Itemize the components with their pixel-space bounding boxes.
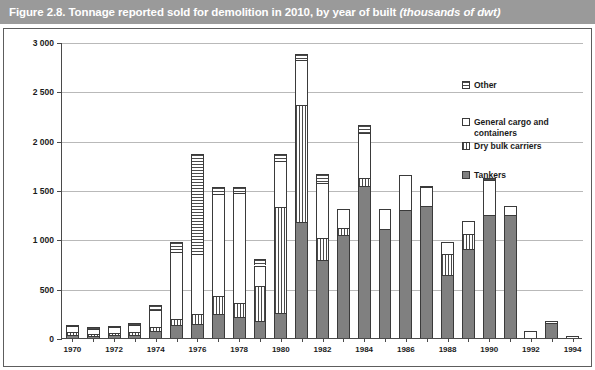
x-axis-tick [531,338,532,342]
legend-item-tankers[interactable]: Tankers [462,170,506,181]
bar-group[interactable] [379,42,392,338]
bar-segment [191,154,204,254]
x-axis-tick [218,338,219,342]
bar-segment [108,327,121,332]
y-axis-label: 500 [40,285,54,295]
bar-group[interactable] [108,42,121,338]
y-axis-label: 2 000 [33,137,54,147]
bar-segment [170,325,183,338]
bar-group[interactable] [128,42,141,338]
legend-item-drybulk[interactable]: Dry bulk carriers [462,141,542,152]
bar-group[interactable] [441,42,454,338]
bar-segment [337,228,350,235]
y-axis-label: 0 [49,334,54,344]
figure-title-main: Figure 2.8. Tonnage reported sold for de… [9,6,399,18]
x-axis-tick [197,338,198,342]
bar-group[interactable] [337,42,350,338]
y-axis-label: 1 500 [33,186,54,196]
bar-segment [170,319,183,324]
x-axis-tick [364,338,365,342]
bar-segment [170,252,183,319]
bar-segment [379,229,392,338]
x-axis-label: 1972 [105,345,123,354]
bar-group[interactable] [254,42,267,338]
legend-swatch-icon [462,142,470,150]
bar-segment [483,180,496,215]
x-axis-tick [93,338,94,342]
bar-group[interactable] [316,42,329,338]
bar-segment [66,325,79,326]
y-axis-label: 2 500 [33,87,54,97]
bar-segment [66,326,79,331]
bar-group[interactable] [504,42,517,338]
bar-segment [358,133,371,178]
bar-segment [545,321,558,322]
bar-group[interactable] [170,42,183,338]
bar-segment [274,154,287,162]
x-axis-tick [552,338,553,342]
figure-title-units: (thousands of dwt) [399,6,500,18]
bar-segment [420,186,433,187]
x-axis-label: 1984 [355,345,373,354]
bar-group[interactable] [295,42,308,338]
bar-group[interactable] [399,42,412,338]
bar-group[interactable] [545,42,558,338]
bar-segment [128,323,141,325]
x-axis-tick [302,338,303,342]
bar-segment [420,187,433,206]
bar-segment [87,334,100,336]
bar-group[interactable] [212,42,225,338]
legend-item-other[interactable]: Other [462,80,497,91]
bar-segment [462,234,475,249]
bar-group[interactable] [87,42,100,338]
bar-group[interactable] [358,42,371,338]
bar-segment [337,235,350,338]
bar-segment [295,222,308,338]
bar-segment [212,194,225,296]
x-axis-tick [406,338,407,342]
bar-segment [128,332,141,335]
x-axis-label: 1986 [397,345,415,354]
bar-segment [462,249,475,338]
bar-segment [191,324,204,338]
bar-group[interactable] [233,42,246,338]
bar-segment [399,210,412,338]
bar-segment [170,242,183,252]
bar-segment [149,305,162,310]
legend-swatch-icon [462,171,470,179]
y-axis-tick [57,339,62,340]
bar-segment [212,314,225,338]
bar-group[interactable] [191,42,204,338]
bar-segment [212,296,225,314]
legend-swatch-icon [462,81,470,89]
x-axis-tick [343,338,344,342]
y-axis-tick [57,290,62,291]
bar-segment [108,333,121,335]
bar-group[interactable] [274,42,287,338]
y-axis-tick [57,191,62,192]
bar-segment [233,193,246,303]
x-axis-tick [135,338,136,342]
bar-segment [358,178,371,185]
bar-segment [87,327,100,328]
chart-frame: 05001 0001 5002 0002 5003 00019701972197… [3,28,592,367]
legend-item-general[interactable]: General cargo and containers [462,117,549,138]
bar-group[interactable] [524,42,537,338]
x-axis-label: 1974 [147,345,165,354]
bar-segment [420,206,433,338]
bar-group[interactable] [420,42,433,338]
bar-segment [379,209,392,229]
x-axis-tick [385,338,386,342]
bar-segment [504,215,517,338]
x-axis-tick [510,338,511,342]
x-axis-tick [156,338,157,342]
x-axis-label: 1970 [64,345,82,354]
bar-group[interactable] [149,42,162,338]
bar-group[interactable] [566,42,579,338]
bar-segment [316,260,329,338]
x-axis-tick [114,338,115,342]
bar-group[interactable] [66,42,79,338]
bar-segment [149,331,162,338]
figure-title: Figure 2.8. Tonnage reported sold for de… [0,6,500,18]
bar-segment [212,187,225,194]
